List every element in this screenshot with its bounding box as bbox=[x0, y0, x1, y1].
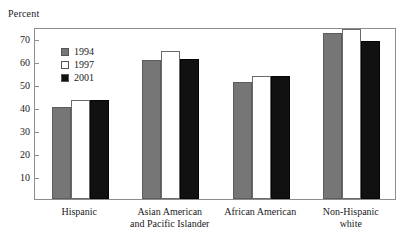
legend-item[interactable]: 1997 bbox=[61, 58, 94, 71]
x-label-line1: Non-Hispanic bbox=[323, 206, 379, 217]
x-label-line2: and Pacific Islander bbox=[125, 218, 216, 230]
x-label-line2: white bbox=[306, 218, 397, 230]
x-axis-category-label: Asian Americanand Pacific Islander bbox=[125, 206, 216, 230]
bar[interactable] bbox=[52, 107, 71, 199]
x-axis-category-label: Non-Hispanicwhite bbox=[306, 206, 397, 230]
bar[interactable] bbox=[342, 29, 361, 199]
y-tick-label: 40 bbox=[20, 104, 30, 114]
legend-swatch-icon bbox=[61, 61, 69, 69]
x-label-line1: African American bbox=[224, 206, 296, 217]
bar[interactable] bbox=[161, 51, 180, 199]
bar-group bbox=[142, 29, 199, 199]
y-tick-label: 60 bbox=[20, 58, 30, 68]
x-axis-category-label: African American bbox=[215, 206, 306, 218]
legend-swatch-icon bbox=[61, 74, 69, 82]
bar[interactable] bbox=[71, 100, 90, 199]
bar-group bbox=[233, 29, 290, 199]
y-tick-label: 30 bbox=[20, 127, 30, 137]
bar[interactable] bbox=[323, 33, 342, 199]
bar[interactable] bbox=[180, 59, 199, 199]
legend-item[interactable]: 1994 bbox=[61, 45, 94, 58]
x-label-line1: Hispanic bbox=[61, 206, 97, 217]
chart-legend: 199419972001 bbox=[61, 45, 94, 84]
bar[interactable] bbox=[361, 41, 380, 199]
y-tick-label: 50 bbox=[20, 81, 30, 91]
x-axis-labels: HispanicAsian Americanand Pacific Island… bbox=[34, 206, 396, 250]
y-axis-title: Percent bbox=[8, 8, 39, 19]
y-tick-label: 20 bbox=[20, 150, 30, 160]
legend-item-label: 1997 bbox=[74, 60, 94, 70]
legend-item-label: 1994 bbox=[74, 47, 94, 57]
bar[interactable] bbox=[271, 76, 290, 199]
legend-item[interactable]: 2001 bbox=[61, 71, 94, 84]
bar[interactable] bbox=[142, 60, 161, 199]
bar[interactable] bbox=[252, 76, 271, 199]
x-axis-category-label: Hispanic bbox=[34, 206, 125, 218]
bar[interactable] bbox=[90, 100, 109, 199]
y-tick-label: 70 bbox=[20, 35, 30, 45]
bar[interactable] bbox=[233, 82, 252, 199]
bar-group bbox=[323, 29, 380, 199]
legend-item-label: 2001 bbox=[74, 73, 94, 83]
bar-chart: Percent 10203040506070 199419972001 Hisp… bbox=[0, 0, 413, 252]
plot-area: 10203040506070 199419972001 bbox=[34, 28, 396, 200]
y-tick-label: 10 bbox=[20, 173, 30, 183]
legend-swatch-icon bbox=[61, 48, 69, 56]
x-label-line1: Asian American bbox=[137, 206, 202, 217]
